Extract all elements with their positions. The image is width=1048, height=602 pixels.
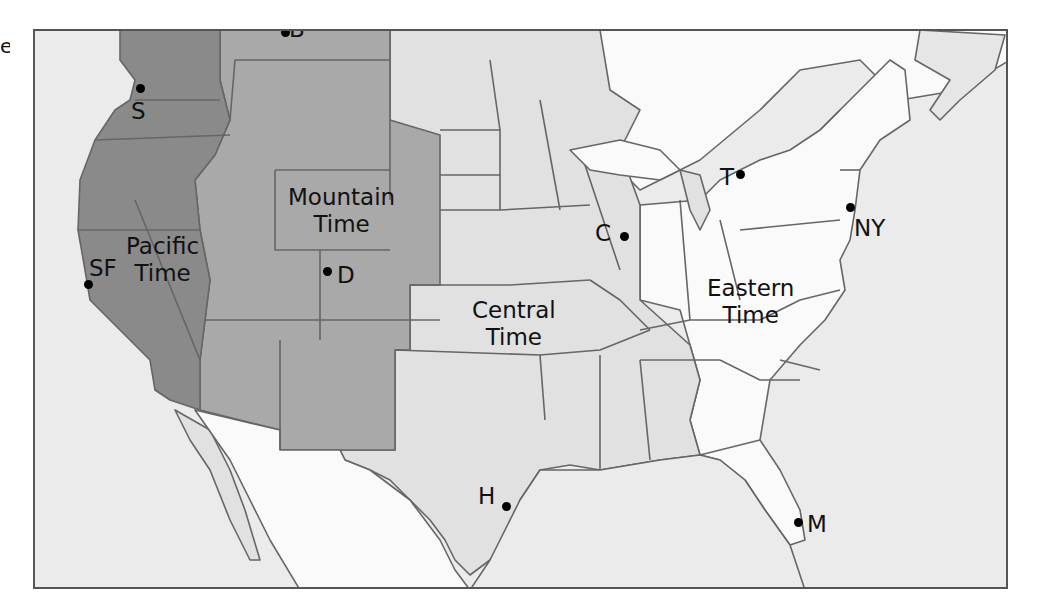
city-label-t: T [720,165,734,189]
city-dot-sf [84,280,93,289]
city-dot-seattle [136,84,145,93]
city-label-b: B [289,29,305,41]
city-label-s: S [131,99,146,123]
city-label-ny: NY [854,216,885,240]
mountain-time-label: Mountain Time [288,184,395,238]
zone-label-line2: Time [126,260,199,287]
zone-label-line2: Time [472,324,556,351]
zone-label-line1: Eastern [707,275,794,302]
zone-label-line2: Time [288,211,395,238]
central-time-label: Central Time [472,297,556,351]
eastern-time-label: Eastern Time [707,275,794,329]
city-dot-h [502,502,511,511]
zone-label-line2: Time [707,302,794,329]
city-dot-ny [846,203,855,212]
city-dot-m [794,518,803,527]
city-dot-c [620,232,629,241]
cropped-edge-text: e [0,34,10,58]
city-label-h: H [478,484,495,508]
zone-label-line1: Mountain [288,184,395,211]
city-dot-t [736,170,745,179]
zone-label-line1: Central [472,297,556,324]
time-zone-map: Pacific Time Mountain Time Central Time … [33,29,1008,589]
city-label-c: C [595,221,611,245]
city-label-d: D [337,263,355,287]
city-label-sf: SF [89,256,117,280]
city-dot-d [323,267,332,276]
pacific-time-label: Pacific Time [126,233,199,287]
zone-label-line1: Pacific [126,233,199,260]
city-label-m: M [807,512,827,536]
